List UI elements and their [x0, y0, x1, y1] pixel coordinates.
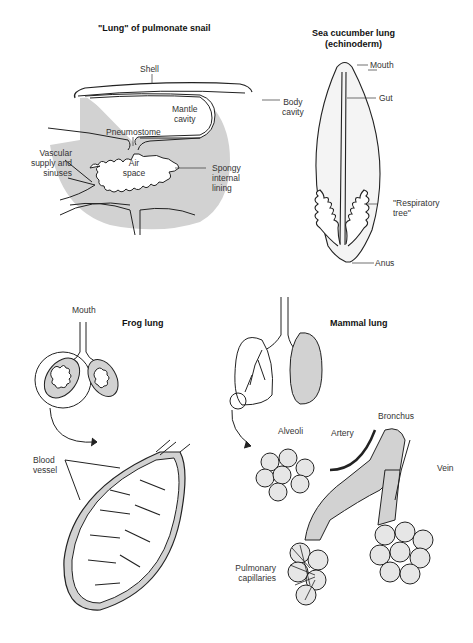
body-cavity-label: Body cavity [282, 97, 304, 117]
sea-cucumber-title-line2: (echinoderm) [312, 39, 395, 50]
artery-label: Artery [331, 428, 354, 438]
pulmonary-capillaries-label-line2: capillaries [222, 573, 276, 583]
sea-cucumber-title: Sea cucumber lung (echinoderm) [312, 28, 395, 50]
respiratory-tree-label-line2: tree" [393, 208, 439, 218]
frog-title: Frog lung [122, 318, 164, 329]
vein-label: Vein [437, 463, 454, 473]
alveoli-label: Alveoli [278, 426, 303, 436]
blood-vessel-label-line1: Blood [33, 455, 57, 465]
blood-vessel-label: Blood vessel [33, 455, 57, 475]
leader-lines [0, 0, 473, 643]
blood-vessel-label-line2: vessel [33, 465, 57, 475]
pulmonary-capillaries-label-line1: Pulmonary [222, 563, 276, 573]
body-cavity-label-line2: cavity [282, 107, 304, 117]
respiratory-tree-label: "Respiratory tree" [393, 198, 439, 218]
sea-cucumber-mouth-label: Mouth [370, 60, 394, 70]
pulmonary-capillaries-label: Pulmonary capillaries [222, 563, 276, 583]
frog-mouth-label: Mouth [72, 305, 96, 315]
sea-cucumber-title-line1: Sea cucumber lung [312, 28, 395, 39]
mammal-title: Mammal lung [330, 318, 388, 329]
respiratory-tree-label-line1: "Respiratory [393, 198, 439, 208]
anus-label: Anus [375, 258, 394, 268]
gut-label: Gut [379, 93, 393, 103]
body-cavity-label-line1: Body [282, 97, 304, 107]
bronchus-label: Bronchus [378, 411, 414, 421]
